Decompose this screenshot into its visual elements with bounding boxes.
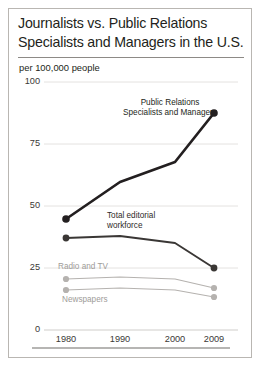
chart-figure: Journalists vs. Public Relations Special…	[0, 0, 260, 366]
annotation-ed-line-2: workforce	[107, 221, 143, 230]
annotation-total-editorial-workforce: Total editorial workforce	[107, 211, 177, 231]
annotation-pr-line-1: Public Relations	[141, 98, 200, 107]
plot-area	[0, 0, 260, 366]
annotation-ed-line-1: Total editorial	[107, 211, 155, 220]
annotation-newspapers: Newspapers	[62, 295, 108, 305]
annotation-radio-and-tv: Radio and TV	[58, 262, 108, 272]
annotation-pr-line-2: Specialists and Managers	[123, 108, 217, 117]
annotation-public-relations: Public Relations Specialists and Manager…	[118, 98, 222, 118]
